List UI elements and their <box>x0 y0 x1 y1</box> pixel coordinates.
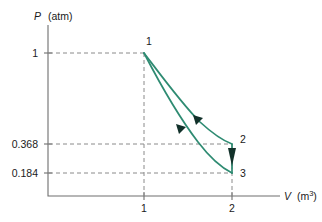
ytick-label-1: 1 <box>32 47 38 59</box>
x-axis-title: V (m3) <box>284 189 317 202</box>
arrowhead-adiabatic <box>176 124 186 134</box>
x-axis-title-var: V <box>284 190 292 202</box>
x-axis-title-units-close: ) <box>313 190 317 202</box>
pv-diagram-figure: 1 0.368 0.184 1 2 P (atm) V (m3) 1 2 3 <box>0 0 322 222</box>
point-label-2: 2 <box>240 133 246 145</box>
ytick-label-0368: 0.368 <box>12 138 38 150</box>
x-axis-title-units: (m <box>297 190 309 202</box>
y-axis-title: P (atm) <box>34 10 72 22</box>
point-label-3: 3 <box>240 167 246 179</box>
point-label-1: 1 <box>146 35 152 47</box>
pv-diagram-svg: 1 0.368 0.184 1 2 P (atm) V (m3) 1 2 3 <box>0 0 322 222</box>
curve-isothermal-1-2 <box>144 53 232 144</box>
y-axis-title-var: P <box>34 10 41 22</box>
ytick-label-0184: 0.184 <box>12 167 38 179</box>
xtick-label-2: 2 <box>229 202 235 214</box>
xtick-label-1: 1 <box>141 202 147 214</box>
y-axis-title-units: (atm) <box>48 10 73 22</box>
arrowhead-isochoric <box>228 148 236 166</box>
